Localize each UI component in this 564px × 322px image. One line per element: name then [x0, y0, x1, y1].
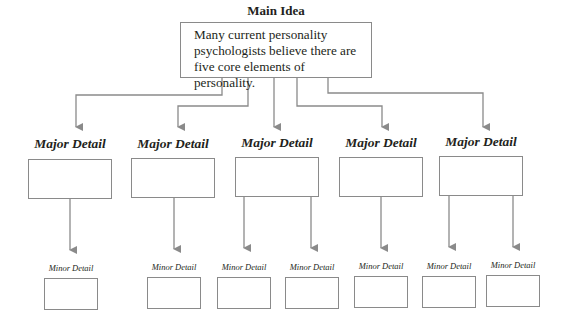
major-detail-box-4[interactable] — [339, 157, 423, 197]
minor-detail-label-1: Minor Detail — [36, 263, 106, 273]
minor-detail-box-3[interactable] — [217, 277, 271, 309]
minor-detail-box-6[interactable] — [422, 276, 476, 308]
major-detail-box-1[interactable] — [28, 159, 112, 199]
main-idea-text: Many current personality psychologists b… — [194, 27, 365, 91]
major-detail-box-3[interactable] — [235, 157, 319, 197]
minor-detail-box-1[interactable] — [44, 278, 98, 310]
main-idea-box: Many current personality psychologists b… — [180, 22, 372, 78]
minor-detail-box-7[interactable] — [486, 275, 540, 307]
major-detail-label-4: Major Detail — [326, 135, 436, 151]
minor-detail-box-4[interactable] — [285, 277, 339, 309]
minor-detail-label-3: Minor Detail — [209, 262, 279, 272]
minor-detail-label-5: Minor Detail — [346, 261, 416, 271]
main-idea-title: Main Idea — [180, 3, 372, 19]
major-detail-box-2[interactable] — [131, 158, 215, 198]
major-detail-label-3: Major Detail — [222, 135, 332, 151]
minor-detail-label-7: Minor Detail — [478, 260, 548, 270]
minor-detail-box-5[interactable] — [354, 276, 408, 308]
major-detail-box-5[interactable] — [439, 156, 523, 196]
minor-detail-box-2[interactable] — [147, 277, 201, 309]
major-detail-label-5: Major Detail — [426, 134, 536, 150]
minor-detail-label-6: Minor Detail — [414, 261, 484, 271]
minor-detail-label-2: Minor Detail — [139, 262, 209, 272]
minor-detail-label-4: Minor Detail — [277, 262, 347, 272]
major-detail-label-1: Major Detail — [15, 136, 125, 152]
major-detail-label-2: Major Detail — [118, 136, 228, 152]
